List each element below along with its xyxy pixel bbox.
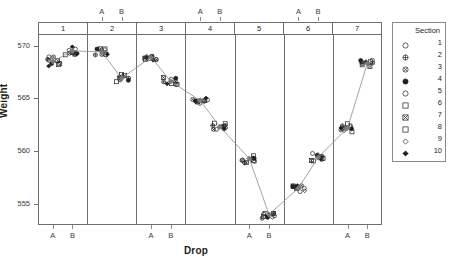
legend-item[interactable]: 10 <box>393 145 447 156</box>
panel-header-strip: 1234567 <box>38 22 382 35</box>
x-tick <box>72 225 73 229</box>
legend-item[interactable]: 6 <box>393 97 447 108</box>
panel-header-7: 7 <box>333 23 381 34</box>
legend-title: Section <box>415 26 440 35</box>
plot-area: ABABAB 1234567 Weight 570565560555 ABABA… <box>0 0 392 265</box>
panel-separator <box>136 35 137 225</box>
legend-item[interactable]: 2 <box>393 49 447 60</box>
x-tick-label-a: A <box>242 231 256 240</box>
top-tick <box>318 17 319 21</box>
circle-x-icon <box>400 61 411 72</box>
panel-separator <box>284 35 285 225</box>
y-tick-label: 560 <box>4 146 30 155</box>
chart-root: ABABAB 1234567 Weight 570565560555 ABABA… <box>0 0 450 265</box>
circle-open-icon <box>400 85 411 96</box>
x-tick <box>367 225 368 229</box>
panel-header-6: 6 <box>284 23 333 34</box>
legend-item-label: 10 <box>434 146 442 155</box>
square-open-icon <box>400 121 411 132</box>
x-tick <box>249 225 250 229</box>
y-tick <box>34 204 38 205</box>
panel-header-1: 1 <box>39 23 88 34</box>
top-tick <box>122 17 123 21</box>
y-tick-label: 555 <box>4 199 30 208</box>
x-tick-label-a: A <box>144 231 158 240</box>
plot-frame <box>38 35 382 225</box>
x-tick-label-b: B <box>360 231 374 240</box>
legend-item[interactable]: 8 <box>393 121 447 132</box>
top-tick <box>200 17 201 21</box>
top-tick-label-a: A <box>291 7 305 16</box>
legend-item-label: 2 <box>438 50 442 59</box>
top-tick <box>102 17 103 21</box>
top-tick-label-a: A <box>95 7 109 16</box>
legend-item[interactable]: 5 <box>393 85 447 96</box>
legend-item[interactable]: 1 <box>393 37 447 48</box>
panel-header-3: 3 <box>137 23 186 34</box>
legend: Section 12345678910 <box>392 22 446 162</box>
y-tick <box>34 46 38 47</box>
panel-header-5: 5 <box>235 23 284 34</box>
legend-item-label: 1 <box>438 38 442 47</box>
y-tick <box>34 98 38 99</box>
x-tick <box>171 225 172 229</box>
legend-item[interactable]: 9 <box>393 133 447 144</box>
x-tick-label-a: A <box>341 231 355 240</box>
panel-separator <box>87 35 88 225</box>
top-tick <box>220 17 221 21</box>
square-x-icon <box>400 109 411 120</box>
panel-separator <box>185 35 186 225</box>
legend-item-label: 8 <box>438 122 442 131</box>
diamond-filled-icon <box>400 145 411 156</box>
x-axis-title: Drop <box>0 245 392 256</box>
square-open-icon <box>400 97 411 108</box>
circle-plus-icon <box>400 49 411 60</box>
y-tick <box>34 151 38 152</box>
legend-item[interactable]: 3 <box>393 61 447 72</box>
x-tick-label-a: A <box>46 231 60 240</box>
x-tick <box>348 225 349 229</box>
legend-item-label: 4 <box>438 74 442 83</box>
x-tick <box>151 225 152 229</box>
legend-item-label: 3 <box>438 62 442 71</box>
legend-item[interactable]: 4 <box>393 73 447 84</box>
top-tick-label-b: B <box>311 7 325 16</box>
x-tick-label-b: B <box>262 231 276 240</box>
legend-item-label: 6 <box>438 98 442 107</box>
x-tick <box>53 225 54 229</box>
panel-separator <box>235 35 236 225</box>
x-tick-label-b: B <box>164 231 178 240</box>
top-tick-label-a: A <box>193 7 207 16</box>
panel-separator <box>333 35 334 225</box>
panel-header-2: 2 <box>88 23 137 34</box>
x-tick <box>269 225 270 229</box>
top-tick-label-b: B <box>115 7 129 16</box>
circle-dot-icon <box>400 73 411 84</box>
top-tick <box>298 17 299 21</box>
y-tick-label: 570 <box>4 41 30 50</box>
diamond-open-icon <box>400 133 411 144</box>
panel-header-4: 4 <box>186 23 235 34</box>
y-tick-label: 565 <box>4 93 30 102</box>
legend-item-label: 7 <box>438 110 442 119</box>
top-tick-label-b: B <box>213 7 227 16</box>
circle-open-icon <box>400 37 411 48</box>
legend-item-label: 5 <box>438 86 442 95</box>
x-tick-label-b: B <box>65 231 79 240</box>
legend-item[interactable]: 7 <box>393 109 447 120</box>
legend-item-label: 9 <box>438 134 442 143</box>
